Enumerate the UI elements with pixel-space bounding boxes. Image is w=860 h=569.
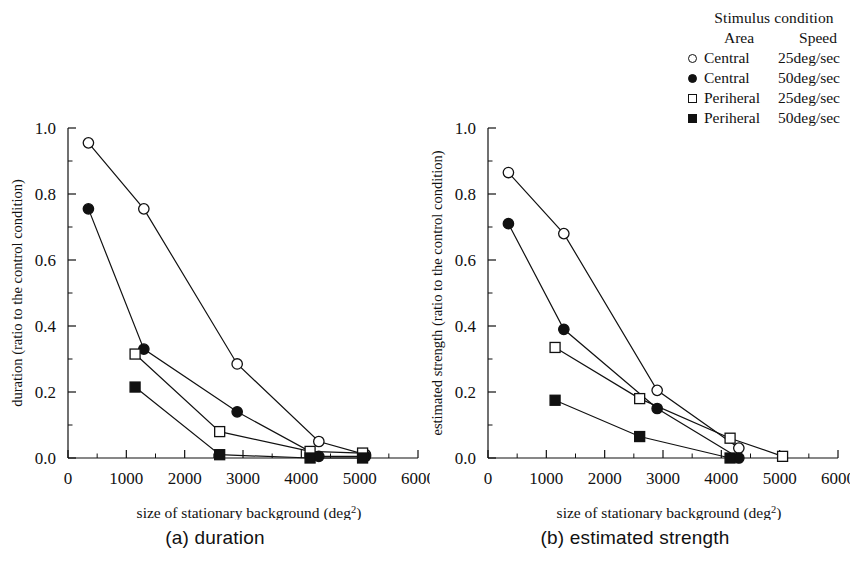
data-point-circle-open[interactable] [559, 228, 569, 238]
chart-svg-estimated-strength: 01000200030004000500060000.00.20.40.60.8… [420, 0, 850, 520]
data-point-circle-filled[interactable] [83, 204, 93, 214]
series-line-circle-filled [508, 224, 738, 458]
chart-svg-duration: 01000200030004000500060000.00.20.40.60.8… [0, 0, 430, 520]
data-point-square-filled[interactable] [305, 453, 315, 463]
chart-panel-estimated-strength: 01000200030004000500060000.00.20.40.60.8… [420, 0, 850, 569]
y-tick-label: 0.2 [455, 383, 476, 402]
x-tick-label: 5000 [763, 469, 797, 488]
data-point-square-open[interactable] [725, 433, 735, 443]
x-tick-label: 0 [64, 469, 73, 488]
data-point-square-filled[interactable] [550, 395, 560, 405]
x-tick-label: 5000 [343, 469, 377, 488]
x-tick-label: 2000 [168, 469, 202, 488]
x-tick-label: 2000 [588, 469, 622, 488]
y-tick-label: 1.0 [455, 119, 476, 138]
data-point-square-filled[interactable] [215, 450, 225, 460]
series-line-square-filled [555, 400, 730, 458]
data-point-circle-open[interactable] [83, 138, 93, 148]
data-point-circle-open[interactable] [503, 167, 513, 177]
x-tick-label: 1000 [529, 469, 563, 488]
y-tick-label: 0.4 [455, 317, 477, 336]
x-tick-label: 0 [484, 469, 493, 488]
data-point-square-filled[interactable] [725, 453, 735, 463]
data-point-square-open[interactable] [215, 427, 225, 437]
series-line-square-open [135, 354, 362, 453]
y-tick-label: 1.0 [35, 119, 56, 138]
data-point-square-filled[interactable] [130, 382, 140, 392]
series-line-circle-open [88, 143, 365, 455]
x-tick-label: 4000 [704, 469, 738, 488]
y-tick-label: 0.2 [35, 383, 56, 402]
x-axis-title: size of stationary background (deg2) [137, 504, 362, 520]
series-line-square-filled [135, 387, 362, 458]
data-point-square-open[interactable] [130, 349, 140, 359]
data-point-circle-open[interactable] [734, 443, 744, 453]
data-point-circle-open[interactable] [232, 359, 242, 369]
data-point-square-open[interactable] [778, 451, 788, 461]
y-tick-label: 0.0 [35, 449, 56, 468]
series-line-circle-filled [88, 209, 365, 457]
y-tick-label: 0.0 [455, 449, 476, 468]
y-axis-title: estimated strength (ratio to the control… [429, 150, 446, 435]
x-tick-label: 3000 [226, 469, 260, 488]
y-tick-label: 0.8 [35, 185, 56, 204]
data-point-square-filled[interactable] [358, 453, 368, 463]
y-axis-title: duration (ratio to the control condition… [9, 179, 26, 407]
series-line-circle-open [508, 173, 738, 449]
data-point-square-open[interactable] [635, 394, 645, 404]
y-tick-label: 0.6 [35, 251, 56, 270]
x-tick-label: 3000 [646, 469, 680, 488]
panel-caption-a: (a) duration [0, 527, 430, 549]
x-tick-label: 1000 [109, 469, 143, 488]
panel-caption-b: (b) estimated strength [420, 527, 850, 549]
figure-root: Stimulus condition Area Speed Central 25… [0, 0, 860, 569]
data-point-circle-filled[interactable] [232, 407, 242, 417]
data-point-square-open[interactable] [550, 342, 560, 352]
y-tick-label: 0.4 [35, 317, 57, 336]
x-tick-label: 4000 [284, 469, 318, 488]
x-axis-title: size of stationary background (deg2) [557, 504, 782, 520]
data-point-circle-filled[interactable] [503, 219, 513, 229]
y-tick-label: 0.8 [455, 185, 476, 204]
data-point-circle-open[interactable] [652, 385, 662, 395]
x-tick-label: 6000 [821, 469, 850, 488]
data-point-circle-filled[interactable] [559, 324, 569, 334]
chart-panel-duration: 01000200030004000500060000.00.20.40.60.8… [0, 0, 430, 569]
y-tick-label: 0.6 [455, 251, 476, 270]
series-line-square-open [555, 347, 782, 456]
data-point-circle-filled[interactable] [652, 403, 662, 413]
data-point-square-filled[interactable] [635, 432, 645, 442]
data-point-circle-open[interactable] [314, 436, 324, 446]
data-point-circle-open[interactable] [139, 204, 149, 214]
